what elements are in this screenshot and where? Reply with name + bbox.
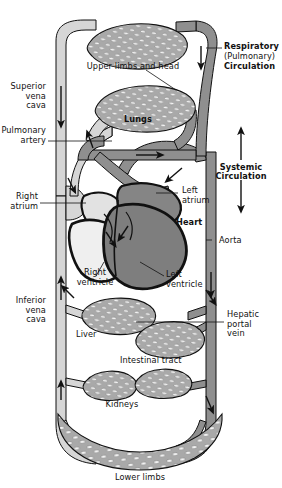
label-hepatic-portal-vein: Hepatic portal vein	[227, 310, 259, 339]
label-inferior-vena-cava: Inferior vena cava	[0, 296, 46, 325]
label-respiratory-circulation-line3: Circulation	[224, 62, 275, 72]
upper-limbs-artery	[196, 21, 217, 156]
capillary-bed-lungs	[95, 86, 195, 132]
hepatic-vein	[66, 305, 84, 319]
label-pulmonary-artery: Pulmonary artery	[0, 126, 46, 145]
label-liver: Liver	[76, 330, 97, 340]
label-aorta: Aorta	[219, 236, 242, 246]
circulatory-system-diagram: Upper limbs and head Lungs Heart Superio…	[0, 0, 282, 488]
label-left-atrium: Left atrium	[182, 186, 210, 205]
label-lower-limbs: Lower limbs	[100, 473, 180, 483]
label-kidneys: Kidneys	[92, 400, 152, 410]
label-upper-limbs-and-head: Upper limbs and head	[78, 62, 188, 72]
capillary-bed-kidney-right	[135, 369, 192, 398]
arrow-into-left-atrium	[168, 168, 182, 180]
capillary-bed-kidney-left	[83, 371, 137, 400]
hepatic-artery-branch	[188, 306, 206, 320]
label-superior-vena-cava: Superior vena cava	[0, 82, 46, 111]
label-heart: Heart	[176, 218, 202, 228]
label-left-ventricle: Left ventricle	[166, 270, 203, 289]
renal-artery-branch	[190, 380, 206, 390]
label-lungs: Lungs	[108, 115, 168, 125]
label-systemic-circulation-line2: Circulation	[208, 172, 274, 182]
label-intestinal-tract: Intestinal tract	[120, 356, 182, 366]
upper-limbs-artery-to-bed	[176, 21, 196, 32]
label-right-ventricle: Right ventricle	[66, 268, 124, 287]
label-right-atrium: Right atrium	[0, 192, 38, 211]
